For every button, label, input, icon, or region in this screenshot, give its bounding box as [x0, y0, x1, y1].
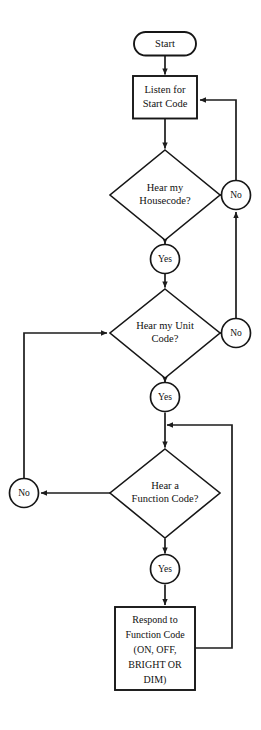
connector-no-unitcode-label: No: [230, 328, 242, 338]
connector-yes-housecode-label: Yes: [158, 254, 172, 264]
node-respond-line2: Function Code: [125, 629, 185, 640]
node-housecode-line1: Hear my: [147, 182, 184, 193]
flowchart-canvas: Start Listen for Start Code Hear my Hous…: [0, 0, 261, 730]
node-start-label: Start: [155, 38, 175, 49]
node-respond-line4: BRIGHT OR: [128, 659, 182, 670]
connector-no-functioncode-label: No: [18, 488, 30, 498]
node-respond-line5: DIM): [144, 674, 167, 686]
node-functioncode-line1: Hear a: [151, 480, 179, 491]
node-functioncode-line2: Function Code?: [132, 493, 199, 504]
edge-no-housecode-to-listen: [200, 100, 236, 181]
node-unitcode-line2: Code?: [152, 333, 179, 344]
connector-yes-unitcode-label: Yes: [158, 392, 172, 402]
node-listen-line1: Listen for: [144, 84, 186, 95]
node-respond-line1: Respond to: [132, 614, 177, 625]
connector-yes-functioncode-label: Yes: [158, 564, 172, 574]
node-housecode-line2: Housecode?: [139, 195, 191, 206]
node-listen-line2: Start Code: [143, 98, 188, 109]
connector-no-housecode-label: No: [230, 190, 242, 200]
flowchart-svg: Start Listen for Start Code Hear my Hous…: [0, 0, 261, 730]
edge-no-functioncode-to-unitcode: [24, 333, 107, 479]
node-unitcode-line1: Hear my Unit: [136, 320, 194, 331]
node-respond-line3: (ON, OFF,: [134, 644, 177, 656]
